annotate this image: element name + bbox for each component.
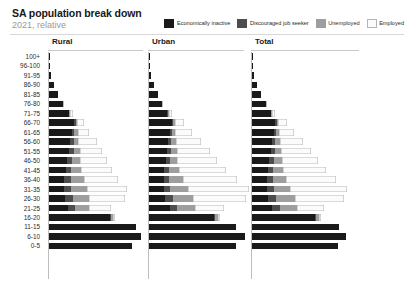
bar-row[interactable] [148,147,248,156]
stacked-bar[interactable] [49,91,58,98]
bar-row[interactable] [48,71,144,80]
bar-row[interactable] [48,232,144,241]
stacked-bar[interactable] [49,148,102,155]
bar-row[interactable] [48,128,144,137]
bar-row[interactable] [251,109,363,118]
bar-row[interactable] [48,204,144,213]
stacked-bar[interactable] [252,214,321,221]
bar-row[interactable] [148,71,248,80]
bar-row[interactable] [148,222,248,231]
stacked-bar[interactable] [149,91,158,98]
bar-row[interactable] [48,213,144,222]
stacked-bar[interactable] [252,63,253,70]
bar-row[interactable] [48,175,144,184]
bar-row[interactable] [148,185,248,194]
stacked-bar[interactable] [252,119,287,126]
bar-row[interactable] [48,137,144,146]
bar-row[interactable] [251,90,363,99]
stacked-bar[interactable] [49,157,107,164]
stacked-bar[interactable] [252,148,311,155]
bar-row[interactable] [48,109,144,118]
bar-row[interactable] [251,175,363,184]
bar-row[interactable] [251,128,363,137]
stacked-bar[interactable] [49,138,97,145]
bar-row[interactable] [148,118,248,127]
stacked-bar[interactable] [49,167,113,174]
bar-row[interactable] [148,137,248,146]
stacked-bar[interactable] [49,119,84,126]
bar-row[interactable] [148,175,248,184]
bar-row[interactable] [48,99,144,108]
bar-row[interactable] [251,222,363,231]
bar-row[interactable] [251,147,363,156]
stacked-bar[interactable] [49,72,51,79]
bar-row[interactable] [251,241,363,250]
stacked-bar[interactable] [252,72,254,79]
bar-row[interactable] [48,61,144,70]
bar-row[interactable] [251,166,363,175]
stacked-bar[interactable] [252,167,326,174]
bar-row[interactable] [251,213,363,222]
stacked-bar[interactable] [49,195,125,202]
legend-item[interactable]: Employed [367,19,404,28]
stacked-bar[interactable] [252,101,267,108]
stacked-bar[interactable] [49,53,50,60]
bar-row[interactable] [48,80,144,89]
bar-row[interactable] [48,185,144,194]
bar-row[interactable] [251,61,363,70]
stacked-bar[interactable] [49,101,64,108]
stacked-bar[interactable] [49,214,115,221]
bar-row[interactable] [48,118,144,127]
legend-item[interactable]: Discouraged job seeker [237,19,308,28]
stacked-bar[interactable] [252,186,347,193]
bar-row[interactable] [251,232,363,241]
stacked-bar[interactable] [252,110,275,117]
bar-row[interactable] [48,156,144,165]
bar-row[interactable] [148,80,248,89]
stacked-bar[interactable] [252,205,324,212]
stacked-bar[interactable] [149,195,246,202]
bar-row[interactable] [48,52,144,61]
bar-row[interactable] [148,156,248,165]
stacked-bar[interactable] [49,110,73,117]
bar-row[interactable] [48,90,144,99]
stacked-bar[interactable] [149,176,237,183]
stacked-bar[interactable] [252,224,339,231]
stacked-bar[interactable] [49,63,50,70]
bar-row[interactable] [48,194,144,203]
bar-row[interactable] [148,128,248,137]
bar-row[interactable] [48,147,144,156]
stacked-bar[interactable] [252,53,253,60]
stacked-bar[interactable] [252,91,261,98]
stacked-bar[interactable] [149,138,201,145]
bar-row[interactable] [148,166,248,175]
stacked-bar[interactable] [149,119,184,126]
bar-row[interactable] [148,61,248,70]
stacked-bar[interactable] [252,82,257,89]
stacked-bar[interactable] [49,205,111,212]
bar-row[interactable] [148,204,248,213]
bar-row[interactable] [251,52,363,61]
bar-row[interactable] [48,241,144,250]
stacked-bar[interactable] [149,243,236,250]
stacked-bar[interactable] [149,186,249,193]
bar-row[interactable] [251,137,363,146]
stacked-bar[interactable] [149,224,236,231]
stacked-bar[interactable] [252,157,318,164]
stacked-bar[interactable] [49,82,54,89]
stacked-bar[interactable] [149,205,224,212]
stacked-bar[interactable] [149,157,217,164]
stacked-bar[interactable] [49,129,90,136]
stacked-bar[interactable] [149,148,210,155]
stacked-bar[interactable] [252,138,303,145]
stacked-bar[interactable] [252,176,336,183]
stacked-bar[interactable] [49,186,127,193]
stacked-bar[interactable] [149,129,192,136]
bar-row[interactable] [148,194,248,203]
bar-row[interactable] [48,222,144,231]
bar-row[interactable] [148,52,248,61]
stacked-bar[interactable] [149,72,151,79]
bar-row[interactable] [148,213,248,222]
stacked-bar[interactable] [49,243,132,250]
bar-row[interactable] [251,194,363,203]
